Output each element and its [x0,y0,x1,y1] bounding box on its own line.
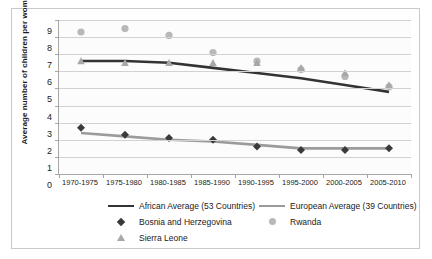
legend-label: Rwanda [290,217,321,227]
legend-line-swatch-icon [259,205,285,207]
legend-triangle-marker-icon [117,234,125,241]
y-tick-mark [55,37,59,38]
legend-label: Bosnia and Herzegovina [139,217,232,227]
x-tick-label: 2000-2005 [326,179,362,187]
legend-marker-swatch [108,234,134,243]
gridline [59,20,411,21]
gridline [59,106,411,107]
data-point [77,28,84,35]
y-tick-mark [55,88,59,89]
y-tick-label: 7 [47,61,52,70]
legend-item[interactable]: Rwanda [259,217,321,227]
x-tick-label: 1990-1995 [238,179,274,187]
x-axis-tick-labels: 1970-19751975-19801980-19851985-19901990… [58,179,410,191]
legend-item[interactable]: African Average (53 Countries) [108,201,255,211]
data-point [121,25,128,32]
series-sierra-leone [77,57,393,88]
x-tick-label: 1970-1975 [62,179,98,187]
gridline [59,54,411,55]
y-tick-label: 0 [47,181,52,190]
gridline [59,140,411,141]
legend-item[interactable]: European Average (39 Countries) [259,201,416,211]
legend-label: Sierra Leone [139,233,188,243]
gridline [59,88,411,89]
y-tick-mark [55,140,59,141]
legend-marker-swatch [108,218,134,227]
gridline [59,71,411,72]
data-point [209,59,217,66]
legend-line-swatch-icon [108,205,134,207]
data-point [341,69,349,76]
y-axis-title: Average number of children per woman [20,0,29,145]
y-tick-label: 3 [47,129,52,138]
y-tick-label: 4 [47,112,52,121]
gridline [59,157,411,158]
y-tick-label: 2 [47,146,52,155]
y-tick-label: 1 [47,163,52,172]
x-tick-mark [279,174,280,178]
y-tick-label: 9 [47,27,52,36]
y-tick-mark [55,20,59,21]
y-axis-tick-labels: 0123456789 [34,20,52,174]
x-tick-label: 2005-2010 [370,179,406,187]
data-point [77,124,85,132]
data-point [385,144,393,152]
plot-wrapper: Average number of children per woman 012… [12,9,421,191]
legend-marker-swatch [259,218,285,227]
gridline [59,37,411,38]
plot-area [58,20,411,175]
legend-circle-marker-icon [269,218,276,225]
x-tick-label: 1980-1985 [150,179,186,187]
x-tick-mark [103,174,104,178]
chart-legend: African Average (53 Countries)European A… [12,199,421,249]
legend-label: African Average (53 Countries) [139,201,255,211]
legend-item[interactable]: Sierra Leone [108,233,188,243]
x-tick-mark [367,174,368,178]
x-tick-mark [191,174,192,178]
y-tick-mark [55,106,59,107]
x-tick-mark [323,174,324,178]
x-tick-mark [147,174,148,178]
series-layer [59,20,411,174]
legend-item[interactable]: Bosnia and Herzegovina [108,217,232,227]
legend-label: European Average (39 Countries) [290,201,416,211]
x-tick-mark [411,174,412,178]
y-tick-label: 6 [47,78,52,87]
y-tick-label: 5 [47,95,52,104]
x-tick-label: 1995-2000 [282,179,318,187]
y-tick-mark [55,123,59,124]
y-tick-mark [55,54,59,55]
series-rwanda [77,25,392,90]
legend-diamond-marker-icon [117,218,125,226]
y-tick-mark [55,157,59,158]
chart-container: Average number of children per woman 012… [11,8,420,249]
x-tick-label: 1975-1980 [106,179,142,187]
gridline [59,123,411,124]
x-tick-mark [59,174,60,178]
x-tick-mark [235,174,236,178]
y-tick-label: 8 [47,44,52,53]
y-tick-mark [55,71,59,72]
x-tick-label: 1985-1990 [194,179,230,187]
